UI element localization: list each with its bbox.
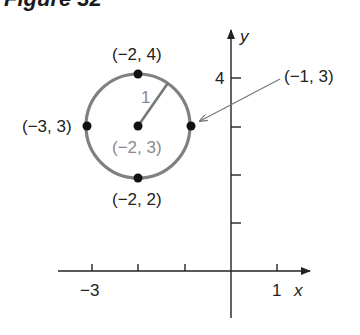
point-right: [187, 122, 196, 131]
x-tick-label--3: −3: [80, 281, 99, 300]
point-center: [134, 122, 143, 131]
point-left: [83, 122, 92, 131]
label-center-point: (−2, 3): [112, 138, 162, 157]
label-top-point: (−2, 4): [112, 45, 162, 64]
radius-label: 1: [141, 88, 150, 107]
pointer-arrow: [200, 79, 280, 121]
label-right-point: (−1, 3): [284, 67, 334, 86]
label-bottom-point: (−2, 2): [112, 190, 162, 209]
y-axis: [231, 30, 241, 318]
label-left-point: (−3, 3): [22, 117, 72, 136]
x-tick-label-1: 1: [272, 281, 281, 300]
coordinate-plot: y x −3 1 4 1 (−2, 4) (−3, 3) (−2, 3) (−2…: [0, 0, 360, 335]
y-axis-label: y: [239, 27, 250, 46]
x-axis: [58, 264, 310, 271]
y-tick-label-4: 4: [215, 69, 224, 88]
point-bottom: [134, 174, 143, 183]
x-axis-label: x: [293, 281, 303, 300]
point-top: [134, 70, 143, 79]
